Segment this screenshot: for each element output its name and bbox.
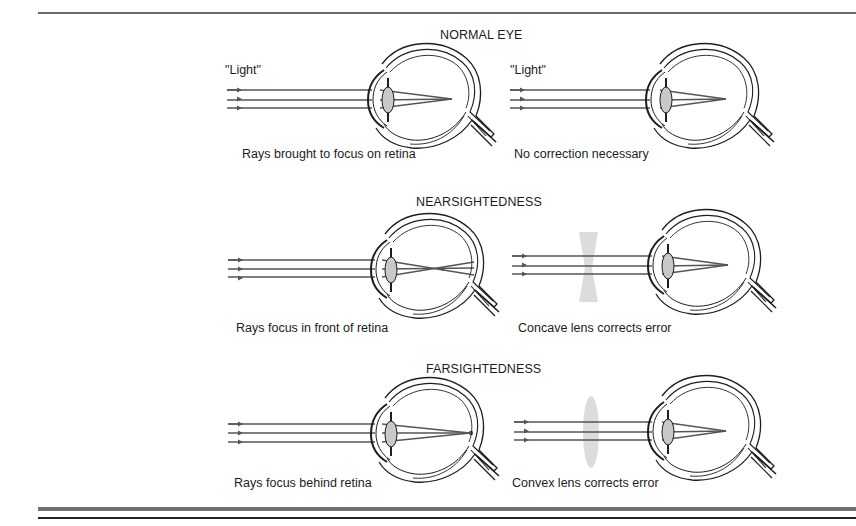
bottom-rule-thin (38, 517, 856, 519)
normal-eye-right (510, 44, 774, 149)
normal-eye-left (227, 44, 496, 149)
concave-lens-icon (579, 232, 598, 302)
eye-diagram-canvas (0, 0, 856, 526)
bottom-rule-thick (38, 507, 856, 511)
farsighted-eye-left (228, 378, 499, 483)
farsighted-eye-right-corrected (514, 376, 776, 481)
nearsighted-eye-right-corrected (512, 210, 776, 315)
nearsighted-eye-left (228, 214, 499, 319)
